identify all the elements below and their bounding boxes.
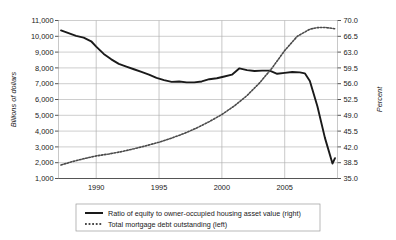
ytick-label-left-7: 8,000 [35,64,54,73]
ytick-label-right-3: 45.5 [344,127,358,136]
ytick-label-right-2: 42.0 [344,143,358,152]
ytick-label-right-6: 56.0 [344,79,358,88]
dual-axis-line-chart: 1,0002,0003,0004,0005,0006,0007,0008,000… [0,0,396,240]
ytick-label-right-5: 52.5 [344,95,358,104]
ytick-label-left-2: 3,000 [35,143,54,152]
ytick-label-left-0: 1,000 [35,174,54,183]
xtick-label-2000: 2000 [214,183,230,192]
ytick-label-right-0: 35.0 [344,174,358,183]
ytick-label-right-1: 38.5 [344,158,358,167]
ytick-label-left-8: 9,000 [35,48,54,57]
ytick-label-left-1: 2,000 [35,158,54,167]
ytick-label-left-5: 6,000 [35,95,54,104]
series-path-equity-ratio [61,30,335,163]
ytick-label-left-4: 5,000 [35,111,54,120]
ytick-label-left-9: 10,000 [31,32,54,41]
xtick-label-2005: 2005 [276,183,292,192]
ytick-label-left-6: 7,000 [35,79,54,88]
xtick-label-1990: 1990 [88,183,104,192]
ytick-label-right-7: 59.5 [344,64,358,73]
series-path-mortgage-debt [61,27,335,165]
ytick-label-right-8: 63.0 [344,48,358,57]
y-axis-title-right: Percent [375,86,384,112]
ytick-label-left-3: 4,000 [35,127,54,136]
chart-container: 1,0002,0003,0004,0005,0006,0007,0008,000… [0,0,396,240]
ytick-label-right-4: 49.0 [344,111,358,120]
y-axis-title-left: Billions of dollars [9,71,18,127]
legend-label-0: Ratio of equity to owner-occupied housin… [108,209,301,218]
xtick-label-1995: 1995 [151,183,167,192]
ytick-label-right-10: 70.0 [344,16,358,25]
ytick-label-right-9: 66.5 [344,32,358,41]
ytick-label-left-10: 11,000 [31,16,53,25]
legend-label-1: Total mortgage debt outstanding (left) [108,220,227,229]
